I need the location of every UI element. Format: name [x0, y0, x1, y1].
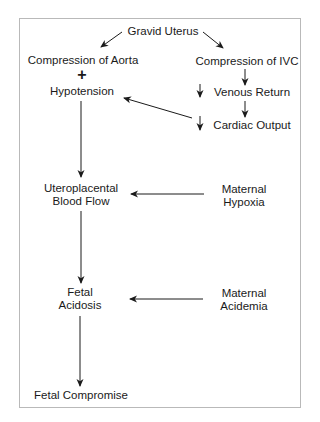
- node-compression-ivc: Compression of IVC: [196, 55, 299, 68]
- maternal-hypoxia-line2: Hypoxia: [222, 196, 267, 209]
- plus-sign: +: [77, 67, 86, 83]
- arrow-uterus-to-ivc: [203, 32, 223, 48]
- arrow-uterus-to-aorta: [101, 32, 122, 47]
- node-maternal-acidemia: Maternal Acidemia: [220, 287, 267, 313]
- node-cardiac-output: Cardiac Output: [213, 119, 290, 132]
- maternal-acidemia-line2: Acidemia: [220, 300, 267, 313]
- node-fetal-acidosis: Fetal Acidosis: [59, 286, 102, 312]
- node-maternal-hypoxia: Maternal Hypoxia: [222, 183, 267, 209]
- node-gravid-uterus: Gravid Uterus: [128, 25, 199, 38]
- maternal-acidemia-line1: Maternal: [220, 287, 267, 300]
- fetal-acidosis-line1: Fetal: [59, 286, 102, 299]
- uteroplacental-line1: Uteroplacental: [44, 182, 118, 195]
- arrow-cardiac-to-hypotension: [124, 98, 192, 118]
- node-hypotension: Hypotension: [50, 85, 114, 98]
- node-uteroplacental-blood-flow: Uteroplacental Blood Flow: [44, 182, 118, 208]
- node-fetal-compromise: Fetal Compromise: [34, 389, 128, 402]
- fetal-acidosis-line2: Acidosis: [59, 299, 102, 312]
- maternal-hypoxia-line1: Maternal: [222, 183, 267, 196]
- node-venous-return: Venous Return: [214, 86, 290, 99]
- uteroplacental-line2: Blood Flow: [44, 195, 118, 208]
